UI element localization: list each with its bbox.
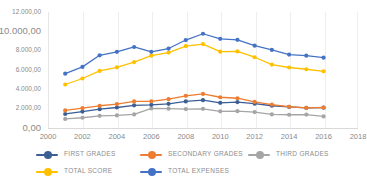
data-point-marker [201, 42, 205, 46]
data-point-marker [218, 95, 222, 99]
data-point-marker [166, 107, 170, 111]
data-point-marker [287, 113, 291, 117]
legend-marker-icon [140, 167, 162, 176]
legend-item-label: THIRD GRADES [276, 151, 329, 158]
data-point-marker [270, 112, 274, 116]
data-point-marker [270, 62, 274, 66]
data-point-marker [132, 112, 136, 116]
data-point-marker [218, 109, 222, 113]
data-point-marker [218, 37, 222, 41]
legend-item-label: SECONDARY GRADES [168, 151, 243, 158]
data-point-marker [115, 50, 119, 54]
data-point-marker [321, 105, 325, 109]
legend-item-label: TOTAL EXPENSES [168, 168, 229, 175]
data-point-marker [98, 69, 102, 73]
data-point-marker [253, 44, 257, 48]
data-point-marker [98, 114, 102, 118]
data-point-marker [115, 102, 119, 106]
series-line [65, 34, 323, 74]
data-point-marker [201, 98, 205, 102]
data-point-marker [270, 103, 274, 107]
data-point-marker [80, 65, 84, 69]
data-point-marker [166, 51, 170, 55]
legend-item-total-expenses[interactable]: TOTAL EXPENSES [140, 167, 229, 176]
data-point-marker [304, 112, 308, 116]
data-point-marker [166, 102, 170, 106]
data-point-marker [218, 101, 222, 105]
series-first-grades [63, 98, 326, 116]
legend-row-2: TOTAL SCORETOTAL EXPENSES [0, 165, 367, 181]
legend-marker-icon [140, 150, 162, 159]
data-point-marker [253, 55, 257, 59]
data-point-marker [63, 108, 67, 112]
data-point-marker [115, 65, 119, 69]
legend-item-first-grades[interactable]: FIRST GRADES [36, 150, 116, 159]
data-point-marker [63, 82, 67, 86]
series-line [65, 100, 323, 114]
data-point-marker [201, 92, 205, 96]
data-point-marker [235, 49, 239, 53]
data-point-marker [201, 107, 205, 111]
data-point-marker [98, 104, 102, 108]
data-point-marker [132, 45, 136, 49]
data-point-marker [80, 76, 84, 80]
data-point-marker [321, 56, 325, 60]
data-point-marker [218, 50, 222, 54]
data-point-marker [149, 50, 153, 54]
legend-item-label: FIRST GRADES [64, 151, 116, 158]
chart-legend: FIRST GRADESSECONDARY GRADESTHIRD GRADES… [0, 148, 367, 184]
data-point-marker [304, 54, 308, 58]
data-point-marker [132, 60, 136, 64]
series-total-expenses [63, 32, 326, 76]
legend-marker-icon [248, 150, 270, 159]
data-point-marker [149, 106, 153, 110]
legend-item-total-score[interactable]: TOTAL SCORE [36, 167, 112, 176]
data-point-marker [132, 103, 136, 107]
data-point-marker [270, 48, 274, 52]
data-point-marker [235, 109, 239, 113]
legend-row-1: FIRST GRADESSECONDARY GRADESTHIRD GRADES [0, 148, 367, 164]
data-point-marker [253, 100, 257, 104]
data-point-marker [149, 99, 153, 103]
data-point-marker [201, 32, 205, 36]
data-point-marker [287, 65, 291, 69]
legend-item-secondary-grades[interactable]: SECONDARY GRADES [140, 150, 243, 159]
data-point-marker [63, 72, 67, 76]
data-point-marker [166, 97, 170, 101]
line-chart: 12.000,0010.000,008.000,006.000,004.000,… [0, 0, 367, 184]
series-line [65, 94, 323, 110]
data-point-marker [149, 54, 153, 58]
data-point-marker [184, 94, 188, 98]
series-line [65, 44, 323, 84]
data-point-marker [235, 38, 239, 42]
data-point-marker [63, 117, 67, 121]
data-point-marker [80, 106, 84, 110]
data-point-marker [184, 99, 188, 103]
data-point-marker [184, 107, 188, 111]
series-total-score [63, 42, 326, 87]
legend-item-label: TOTAL SCORE [64, 168, 112, 175]
legend-marker-icon [36, 150, 58, 159]
data-point-marker [253, 110, 257, 114]
data-point-marker [304, 67, 308, 71]
data-point-marker [304, 106, 308, 110]
data-point-marker [321, 69, 325, 73]
legend-marker-icon [36, 167, 58, 176]
data-point-marker [80, 116, 84, 120]
data-point-marker [287, 52, 291, 56]
data-point-marker [184, 38, 188, 42]
data-point-marker [235, 96, 239, 100]
data-point-marker [166, 46, 170, 50]
data-point-marker [321, 114, 325, 118]
data-point-marker [115, 113, 119, 117]
data-point-marker [235, 100, 239, 104]
data-point-marker [184, 44, 188, 48]
data-point-marker [287, 105, 291, 109]
series-line [65, 108, 323, 118]
legend-item-third-grades[interactable]: THIRD GRADES [248, 150, 329, 159]
data-point-marker [98, 53, 102, 57]
data-point-marker [132, 99, 136, 103]
